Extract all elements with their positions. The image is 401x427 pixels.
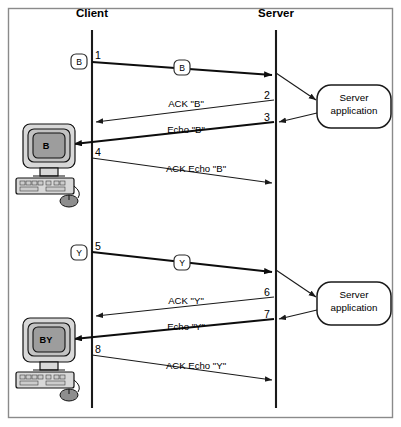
sequence-diagram: Client Server Server application Server … <box>0 0 401 427</box>
client-computer-lower: BY <box>16 318 79 401</box>
step-number-7: 7 <box>264 308 270 320</box>
message-label-4: ACK Echo "B" <box>166 163 226 174</box>
server-app-label-line2: application <box>331 105 378 116</box>
client-token-b-label: B <box>76 57 82 67</box>
step-number-8: 8 <box>95 343 101 355</box>
message-label-3: Echo "B" <box>167 124 205 135</box>
inflight-token-y-label: Y <box>179 258 185 268</box>
step-number-2: 2 <box>264 89 270 101</box>
step-number-4: 4 <box>95 146 101 158</box>
step-number-6: 6 <box>264 286 270 298</box>
server-app-label-line2-lower: application <box>331 302 378 313</box>
client-token-b: B <box>71 54 87 69</box>
client-header: Client <box>76 7 108 19</box>
client-computer-upper: B <box>16 124 79 207</box>
step-number-1: 1 <box>95 49 101 61</box>
step-number-3: 3 <box>264 111 270 123</box>
server-application-box-lower: Server application <box>317 282 391 325</box>
server-application-box-upper: Server application <box>317 85 391 128</box>
client-token-y: Y <box>71 245 87 260</box>
server-app-label-line1: Server <box>340 92 370 103</box>
inflight-token-b-label: B <box>179 63 185 73</box>
message-label-8: ACK Echo "Y" <box>166 360 226 371</box>
inflight-token-b: B <box>174 60 190 75</box>
server-header: Server <box>258 7 294 19</box>
message-label-2: ACK "B" <box>168 98 204 109</box>
step-number-5: 5 <box>95 240 101 252</box>
client-token-y-label: Y <box>76 248 82 258</box>
client-screen-text-upper: B <box>43 141 50 151</box>
message-label-7: Echo "Y" <box>167 321 205 332</box>
message-label-6: ACK "Y" <box>168 295 204 306</box>
client-screen-text-lower: BY <box>40 335 53 345</box>
server-app-label-line1-lower: Server <box>340 289 370 300</box>
inflight-token-y: Y <box>174 255 190 270</box>
